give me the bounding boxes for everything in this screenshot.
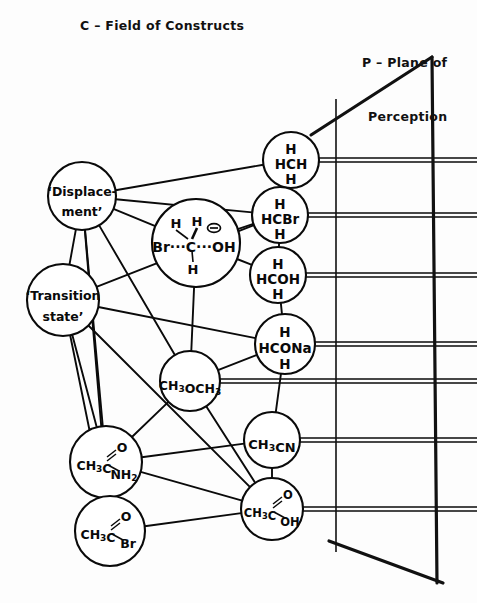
edge-dimethyl-ether-to-acetamide <box>132 402 168 437</box>
node-methanol-line-1: H <box>272 256 283 272</box>
node-sn2-transition-complex[interactable]: Br···C···OHHHH <box>152 199 240 287</box>
edge-sn2-transition-complex-to-dimethyl-ether <box>191 287 194 351</box>
node-sodium-methoxide-line-3: H <box>279 356 290 372</box>
node-methane-line-2: HCH <box>275 156 308 172</box>
node-sn2-transition-complex-h-lower: H <box>188 262 199 277</box>
node-methane[interactable]: HHCHH <box>263 132 319 188</box>
ray-dimethyl-ether <box>220 379 477 383</box>
node-sn2-transition-complex-h-upper-left: H <box>171 216 182 231</box>
edge-sn2-transition-complex-to-methanol <box>237 259 252 265</box>
node-bromomethane-line-1: H <box>274 196 285 212</box>
edge-displacement-to-transition-state <box>69 229 75 264</box>
node-transition-state-line-2: state’ <box>42 309 83 324</box>
ray-methanol <box>306 273 477 277</box>
node-transition-state[interactable]: ‘Transitionstate’ <box>26 264 101 336</box>
node-acetic-acid-carbonyl-oxygen: O <box>283 488 293 502</box>
node-displacement-line-1: ‘Displace- <box>47 184 117 199</box>
node-bromomethane[interactable]: HHCBrH <box>252 187 308 243</box>
node-displacement-line-2: ment’ <box>61 204 102 219</box>
constructs-network-svg: ‘Displace-ment’‘Transitionstate’Br···C··… <box>0 0 477 603</box>
node-sodium-methoxide-line-2: HCONa <box>258 340 311 356</box>
node-acetyl-bromide[interactable]: CH3COBr <box>75 496 145 566</box>
edge-acetyl-bromide-to-acetic-acid <box>145 513 242 526</box>
node-dimethyl-ether[interactable]: CH3OCH3 <box>159 351 221 411</box>
edge-displacement-to-methane <box>116 165 264 190</box>
node-acetyl-bromide-carbonyl-oxygen: O <box>121 509 132 524</box>
node-methanol-line-2: HCOH <box>256 271 300 287</box>
ray-bromomethane <box>308 213 477 217</box>
node-acetamide-carbonyl-oxygen: O <box>117 440 128 455</box>
ray-methane <box>319 158 477 162</box>
edge-displacement-to-sn2-transition-complex <box>113 209 155 226</box>
ray-sodium-methoxide <box>315 342 477 346</box>
node-transition-state-line-1: ‘Transition <box>26 288 101 303</box>
node-bromomethane-line-2: HCBr <box>261 211 299 227</box>
node-acetonitrile[interactable]: CH3CN <box>244 412 300 468</box>
node-methanol[interactable]: HHCOHH <box>250 247 306 303</box>
plane-bottom-edge <box>329 541 443 583</box>
node-acetic-acid[interactable]: CH3COOH <box>241 478 303 540</box>
ray-acetonitrile <box>300 438 477 442</box>
node-sodium-methoxide[interactable]: HHCONaH <box>255 314 315 374</box>
edge-acetonitrile-to-acetamide <box>142 444 245 458</box>
plane-right-edge <box>432 57 437 583</box>
edge-methanol-to-sodium-methoxide <box>281 303 282 314</box>
node-sn2-transition-complex-formula: Br···C···OH <box>152 239 235 255</box>
edge-acetamide-to-acetic-acid <box>141 472 243 501</box>
ray-acetic-acid <box>303 507 477 511</box>
perception-plane-layer <box>311 57 443 583</box>
node-methane-line-3: H <box>285 171 296 187</box>
node-bromomethane-line-3: H <box>274 226 285 242</box>
edge-sodium-methoxide-to-dimethyl-ether <box>218 355 257 370</box>
edge-transition-state-to-sodium-methoxide <box>98 307 255 338</box>
node-acetamide[interactable]: CH3CONH2 <box>70 426 142 498</box>
node-methanol-line-3: H <box>272 286 283 302</box>
node-sn2-transition-complex-bond-h-lower <box>192 251 193 262</box>
diagram-canvas: C – Field of Constructs P – Plane of Per… <box>0 0 477 603</box>
node-acetyl-bromide-substituent: Br <box>120 536 137 551</box>
node-sodium-methoxide-line-1: H <box>279 324 290 340</box>
node-methane-line-1: H <box>285 141 296 157</box>
edge-transition-state-to-acetamide <box>72 335 97 427</box>
node-displacement[interactable]: ‘Displace-ment’ <box>47 162 117 230</box>
node-sn2-transition-complex-h-upper-right: H <box>192 214 203 229</box>
plane-top-edge <box>311 57 432 135</box>
